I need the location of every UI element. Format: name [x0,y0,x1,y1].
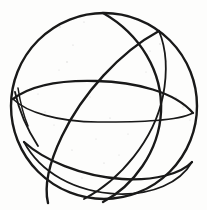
paper-speck [103,162,104,163]
paper-speckle-layer [38,21,191,178]
equator-ellipse [13,81,193,113]
left-cusp-arc [15,92,38,146]
paper-speck [128,134,129,135]
paper-speck [44,111,45,112]
paper-speck [190,120,191,121]
paper-speck [182,106,183,107]
paper-speck [175,96,176,97]
paper-speck [59,70,60,71]
paper-speck [119,155,120,156]
paper-speck [59,26,60,27]
paper-speck [109,117,110,118]
sphere-sketch-canvas: Sphere with great circles [0,0,207,210]
paper-speck [146,72,147,73]
paper-speck [54,125,55,126]
paper-speck [71,149,72,150]
equator-ellipse-back [13,99,193,122]
outer-circle [11,13,197,199]
paper-speck [159,43,160,44]
paper-speck [66,61,67,62]
meridian-ellipse [103,13,161,202]
paper-speck [96,139,97,140]
paper-speck [38,94,39,95]
paper-speck [90,97,91,98]
paper-speck [149,50,150,51]
paper-speck [72,44,73,45]
paper-speck [83,21,84,22]
sphere-diagram [0,0,207,210]
paper-speck [82,178,83,179]
